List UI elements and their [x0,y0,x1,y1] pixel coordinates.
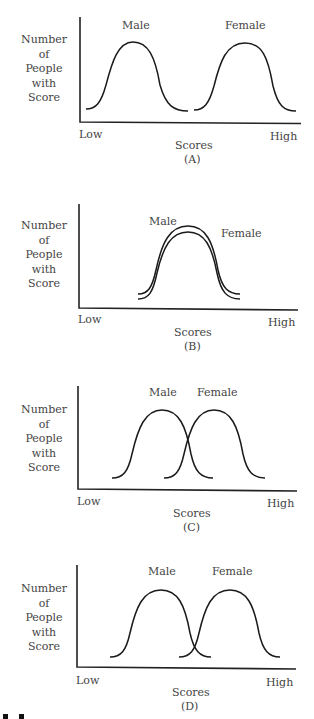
x-axis-label: Scores [172,686,210,699]
panel-c: Number of People with Score Male Female … [0,360,314,540]
fragment-mark [19,714,24,719]
panel-caption: (A) [184,153,201,166]
female-curve [164,410,265,478]
panel-caption: (D) [181,700,198,713]
axes [79,204,298,310]
x-axis-label: Scores [175,139,213,152]
axes [80,17,301,124]
x-high-label: High [266,676,293,689]
cropped-glyph-fragment [0,714,30,719]
female-label: Female [212,565,253,578]
female-curve [194,43,296,111]
x-high-label: High [267,497,294,510]
panel-b: Number of People with Score Male Female … [0,180,314,360]
x-high-label: High [268,316,295,329]
male-curve [112,410,213,478]
x-high-label: High [270,130,297,143]
male-label: Male [148,565,176,578]
female-label: Female [197,386,238,399]
plot-b [0,180,314,360]
female-label: Female [221,227,262,240]
male-curve [110,590,211,657]
panel-d: Number of People with Score Male Female … [0,539,314,719]
female-curve [138,232,240,299]
x-low-label: Low [76,674,99,687]
plot-a [0,0,314,180]
x-axis-label: Scores [173,507,211,520]
male-label: Male [149,386,177,399]
x-low-label: Low [77,495,100,508]
x-axis-label: Scores [174,326,212,339]
panel-caption: (B) [184,340,201,353]
x-low-label: Low [78,313,101,326]
female-label: Female [225,19,266,32]
male-label: Male [149,215,177,228]
male-curve [86,42,188,111]
fragment-mark [3,714,8,719]
panel-caption: (C) [183,521,200,534]
panel-a: Number of People with Score Male Female … [0,0,314,180]
female-curve [179,590,280,657]
x-low-label: Low [79,128,102,141]
male-label: Male [122,19,150,32]
